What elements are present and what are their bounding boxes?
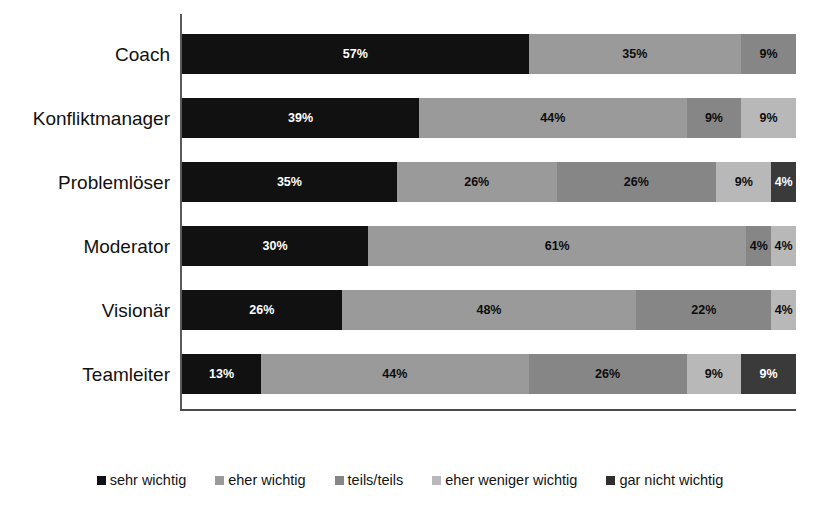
- category-label: Visionär: [0, 290, 170, 330]
- bar-segment-value: 30%: [263, 240, 288, 253]
- bar-segment-value: 4%: [775, 240, 793, 253]
- bar-segment: 26%: [397, 162, 557, 202]
- bar-row: 13%44%26%9%9%: [182, 354, 796, 394]
- bar-segment-value: 22%: [691, 304, 716, 317]
- bar-segment: 9%: [687, 354, 742, 394]
- bar-segment-value: 9%: [760, 48, 778, 61]
- bar-segment: 4%: [746, 226, 771, 266]
- category-label: Problemlöser: [0, 162, 170, 202]
- legend-swatch-icon: [432, 476, 441, 485]
- bar-segment-value: 26%: [249, 304, 274, 317]
- bar-segment: 9%: [741, 354, 796, 394]
- bar-segment: 4%: [771, 290, 796, 330]
- legend-label: eher wichtig: [228, 473, 305, 488]
- bar-segment-value: 9%: [760, 112, 778, 125]
- legend-swatch-icon: [97, 476, 106, 485]
- category-label: Teamleiter: [0, 354, 170, 394]
- bar-row: 35%26%26%9%4%: [182, 162, 796, 202]
- legend-item[interactable]: sehr wichtig: [97, 473, 187, 488]
- bar-segment: 4%: [771, 162, 796, 202]
- bar-segment: 9%: [716, 162, 771, 202]
- bar-segment: 30%: [182, 226, 368, 266]
- bar-segment-value: 9%: [705, 368, 723, 381]
- bar-segment: 26%: [182, 290, 342, 330]
- bar-segment-value: 48%: [476, 304, 501, 317]
- bar-segment: 61%: [368, 226, 746, 266]
- bar-segment-value: 9%: [705, 112, 723, 125]
- bar-segment: 4%: [771, 226, 796, 266]
- bar-segment: 35%: [529, 34, 742, 74]
- bar-segment-value: 13%: [209, 368, 234, 381]
- legend-label: eher weniger wichtig: [445, 473, 577, 488]
- category-label: Konfliktmanager: [0, 98, 170, 138]
- bar-segment-value: 4%: [750, 240, 768, 253]
- chart-legend: sehr wichtigeher wichtigteils/teilseher …: [0, 467, 820, 493]
- bar-segment: 9%: [687, 98, 742, 138]
- bar-segment: 35%: [182, 162, 397, 202]
- legend-item[interactable]: teils/teils: [335, 473, 404, 488]
- bar-segment-value: 9%: [760, 368, 778, 381]
- bar-segment: 44%: [261, 354, 528, 394]
- legend-label: gar nicht wichtig: [619, 473, 723, 488]
- bar-rows: 57%35%9%39%44%9%9%35%26%26%9%4%30%61%4%4…: [182, 14, 796, 411]
- legend-label: sehr wichtig: [110, 473, 187, 488]
- category-label: Moderator: [0, 226, 170, 266]
- bar-segment-value: 61%: [545, 240, 570, 253]
- bar-segment-value: 44%: [382, 368, 407, 381]
- bar-segment-value: 44%: [540, 112, 565, 125]
- bar-segment-value: 39%: [288, 112, 313, 125]
- legend-item[interactable]: eher weniger wichtig: [432, 473, 577, 488]
- bar-segment: 26%: [557, 162, 717, 202]
- category-label: Coach: [0, 34, 170, 74]
- bar-row: 26%48%22%4%: [182, 290, 796, 330]
- bar-segment-value: 57%: [343, 48, 368, 61]
- bar-segment-value: 4%: [775, 176, 793, 189]
- bar-segment: 13%: [182, 354, 261, 394]
- legend-swatch-icon: [215, 476, 224, 485]
- bar-segment-value: 26%: [595, 368, 620, 381]
- bar-segment: 9%: [741, 98, 796, 138]
- legend-swatch-icon: [606, 476, 615, 485]
- bar-segment: 26%: [529, 354, 687, 394]
- bar-row: 39%44%9%9%: [182, 98, 796, 138]
- category-axis-labels: CoachKonfliktmanagerProblemlöserModerato…: [0, 14, 170, 411]
- legend-item[interactable]: gar nicht wichtig: [606, 473, 723, 488]
- bar-segment-value: 4%: [775, 304, 793, 317]
- x-axis-line: [180, 409, 796, 411]
- bar-row: 57%35%9%: [182, 34, 796, 74]
- stacked-bar-chart: CoachKonfliktmanagerProblemlöserModerato…: [0, 0, 820, 523]
- bar-segment: 39%: [182, 98, 419, 138]
- bar-segment: 22%: [636, 290, 771, 330]
- bar-segment-value: 35%: [277, 176, 302, 189]
- bar-segment-value: 26%: [624, 176, 649, 189]
- bar-segment: 48%: [342, 290, 637, 330]
- legend-item[interactable]: eher wichtig: [215, 473, 305, 488]
- bar-segment: 9%: [741, 34, 796, 74]
- bar-segment-value: 9%: [735, 176, 753, 189]
- bar-segment: 44%: [419, 98, 686, 138]
- legend-swatch-icon: [335, 476, 344, 485]
- bar-row: 30%61%4%4%: [182, 226, 796, 266]
- bar-segment: 57%: [182, 34, 529, 74]
- legend-label: teils/teils: [348, 473, 404, 488]
- bar-segment-value: 26%: [464, 176, 489, 189]
- bar-segment-value: 35%: [622, 48, 647, 61]
- plot-area: 57%35%9%39%44%9%9%35%26%26%9%4%30%61%4%4…: [180, 14, 796, 411]
